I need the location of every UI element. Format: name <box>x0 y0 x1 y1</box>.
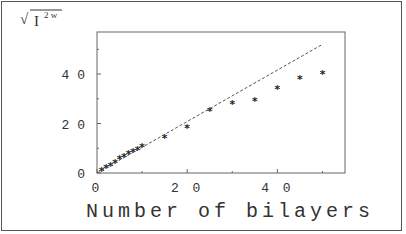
data-point: * <box>252 95 259 108</box>
data-point: * <box>229 98 236 111</box>
sqrt-symbol: √ <box>20 11 29 27</box>
x-tick-label: 4 0 <box>261 181 293 196</box>
x-tick-label: 0 <box>92 181 103 196</box>
y-tick-label: 2 0 <box>62 118 85 133</box>
y-axis-label-superscript: 2 w <box>44 10 58 20</box>
y-tick-label: 4 0 <box>62 68 85 83</box>
data-point: * <box>319 68 326 81</box>
data-point: * <box>184 122 191 135</box>
data-series: ****************** <box>97 44 326 177</box>
x-tick-label: 2 0 <box>171 181 203 196</box>
x-axis-label: Number of bilayers <box>80 200 380 223</box>
y-axis-label: I <box>34 13 39 29</box>
scatter-plot: √ I 2 w 02 04 002 04 0 *****************… <box>0 0 406 234</box>
data-point: * <box>297 73 304 86</box>
data-point: * <box>274 83 281 96</box>
y-tick-label: 0 <box>77 167 85 182</box>
